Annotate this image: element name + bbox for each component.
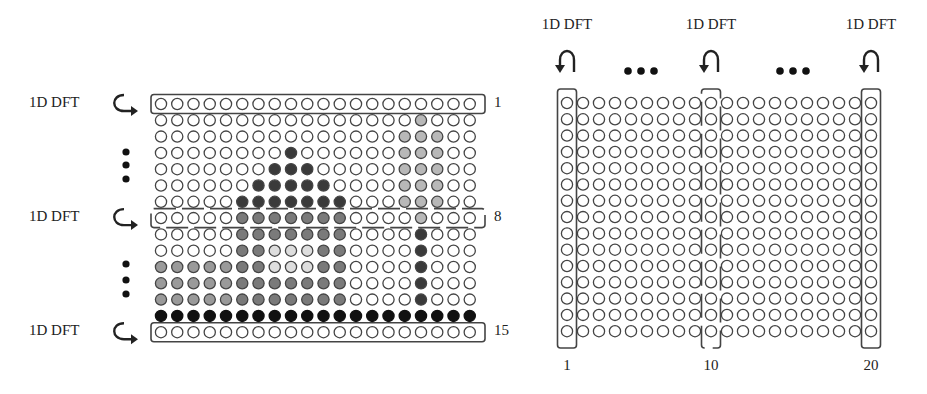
pixel-circle bbox=[785, 146, 796, 157]
pixel-circle bbox=[785, 195, 796, 206]
pixel-circle bbox=[155, 229, 166, 240]
pixel-circle bbox=[577, 114, 588, 125]
pixel-circle bbox=[285, 310, 296, 321]
pixel-circle bbox=[657, 326, 668, 337]
pixel-circle bbox=[705, 309, 716, 320]
pixel-circle bbox=[237, 196, 248, 207]
arrow-head-icon bbox=[699, 65, 709, 73]
pixel-circle bbox=[220, 131, 231, 142]
pixel-circle bbox=[415, 327, 426, 338]
pixel-circle bbox=[155, 180, 166, 191]
pixel-circle bbox=[657, 146, 668, 157]
pixel-circle bbox=[817, 212, 828, 223]
pixel-circle bbox=[641, 228, 652, 239]
pixel-circle bbox=[849, 212, 860, 223]
pixel-circle bbox=[302, 180, 313, 191]
pixel-circle bbox=[849, 179, 860, 190]
pixel-circle bbox=[721, 309, 732, 320]
pixel-circle bbox=[269, 164, 280, 175]
pixel-circle bbox=[415, 294, 426, 305]
pixel-circle bbox=[593, 97, 604, 108]
pixel-circle bbox=[253, 261, 264, 272]
pixel-circle bbox=[367, 115, 378, 126]
pixel-circle bbox=[302, 131, 313, 142]
pixel-circle bbox=[350, 180, 361, 191]
pixel-circle bbox=[673, 163, 684, 174]
pixel-circle bbox=[737, 277, 748, 288]
pixel-circle bbox=[253, 213, 264, 224]
pixel-circle bbox=[561, 293, 572, 304]
pixel-circle bbox=[641, 146, 652, 157]
pixel-circle bbox=[593, 114, 604, 125]
pixel-circle bbox=[253, 115, 264, 126]
pixel-circle bbox=[448, 180, 459, 191]
pixel-circle bbox=[302, 98, 313, 109]
pixel-circle bbox=[673, 277, 684, 288]
pixel-circle bbox=[448, 261, 459, 272]
pixel-circle bbox=[817, 114, 828, 125]
pixel-circle bbox=[593, 277, 604, 288]
pixel-circle bbox=[350, 261, 361, 272]
pixel-circle bbox=[399, 278, 410, 289]
pixel-circle bbox=[593, 179, 604, 190]
pixel-circle bbox=[155, 278, 166, 289]
pixel-circle bbox=[833, 293, 844, 304]
pixel-circle bbox=[609, 212, 620, 223]
dft-diagram-canvas bbox=[0, 0, 927, 394]
pixel-circle bbox=[188, 147, 199, 158]
pixel-circle bbox=[399, 164, 410, 175]
pixel-circle bbox=[785, 326, 796, 337]
pixel-circle bbox=[625, 293, 636, 304]
pixel-circle bbox=[561, 97, 572, 108]
pixel-circle bbox=[657, 260, 668, 271]
pixel-circle bbox=[849, 293, 860, 304]
pixel-circle bbox=[609, 277, 620, 288]
pixel-circle bbox=[801, 309, 812, 320]
pixel-circle bbox=[737, 228, 748, 239]
right-dft-label-10: 1D DFT bbox=[686, 16, 736, 33]
pixel-circle bbox=[188, 294, 199, 305]
pixel-circle bbox=[801, 293, 812, 304]
pixel-circle bbox=[801, 260, 812, 271]
pixel-circle bbox=[269, 327, 280, 338]
pixel-circle bbox=[448, 98, 459, 109]
pixel-circle bbox=[769, 326, 780, 337]
pixel-circle bbox=[737, 163, 748, 174]
pixel-circle bbox=[285, 131, 296, 142]
pixel-circle bbox=[318, 229, 329, 240]
pixel-circle bbox=[399, 115, 410, 126]
pixel-circle bbox=[641, 309, 652, 320]
pixel-circle bbox=[865, 97, 876, 108]
pixel-circle bbox=[448, 294, 459, 305]
pixel-circle bbox=[689, 195, 700, 206]
pixel-circle bbox=[188, 131, 199, 142]
pixel-circle bbox=[561, 179, 572, 190]
pixel-circle bbox=[817, 195, 828, 206]
pixel-circle bbox=[865, 277, 876, 288]
pixel-circle bbox=[817, 326, 828, 337]
pixel-circle bbox=[753, 212, 764, 223]
pixel-circle bbox=[204, 131, 215, 142]
pixel-circle bbox=[253, 131, 264, 142]
pixel-circle bbox=[769, 212, 780, 223]
pixel-circle bbox=[785, 260, 796, 271]
pixel-circle bbox=[849, 114, 860, 125]
pixel-circle bbox=[399, 147, 410, 158]
pixel-circle bbox=[577, 293, 588, 304]
pixel-circle bbox=[753, 163, 764, 174]
pixel-circle bbox=[577, 244, 588, 255]
pixel-circle bbox=[577, 277, 588, 288]
pixel-circle bbox=[657, 228, 668, 239]
pixel-circle bbox=[302, 310, 313, 321]
pixel-circle bbox=[689, 146, 700, 157]
pixel-circle bbox=[237, 261, 248, 272]
pixel-circle bbox=[657, 212, 668, 223]
pixel-circle bbox=[865, 114, 876, 125]
pixel-circle bbox=[705, 163, 716, 174]
pixel-circle bbox=[253, 164, 264, 175]
pixel-circle bbox=[383, 147, 394, 158]
pixel-circle bbox=[689, 277, 700, 288]
pixel-circle bbox=[399, 213, 410, 224]
pixel-circle bbox=[833, 97, 844, 108]
pixel-circle bbox=[641, 326, 652, 337]
